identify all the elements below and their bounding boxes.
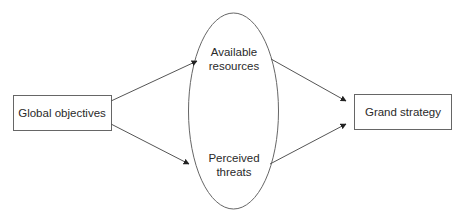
available-label-line1: Available — [211, 46, 257, 58]
resources-label-line2: resources — [209, 60, 260, 72]
arrow-objectives-to-resources — [111, 61, 197, 101]
global-objectives-box: Global objectives — [14, 96, 112, 131]
grand-strategy-label: Grand strategy — [365, 106, 441, 118]
arrow-threats-to-strategy — [270, 124, 346, 164]
global-objectives-label: Global objectives — [18, 107, 106, 119]
arrow-objectives-to-threats — [111, 124, 189, 164]
threats-label-line2: threats — [216, 166, 251, 178]
perceived-label-line1: Perceived — [208, 152, 259, 164]
diagram-canvas: Global objectives Available resources Pe… — [0, 0, 465, 223]
arrow-resources-to-strategy — [271, 59, 346, 101]
factors-ellipse: Available resources Perceived threats — [189, 13, 279, 209]
grand-strategy-box: Grand strategy — [355, 95, 452, 130]
